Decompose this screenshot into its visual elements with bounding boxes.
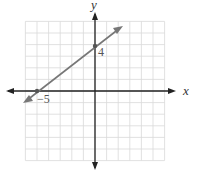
x-intercept-label: −5 bbox=[37, 92, 50, 106]
y-axis-down-arrow-icon bbox=[92, 162, 98, 170]
y-axis-up-arrow-icon bbox=[92, 12, 98, 20]
plotted-line bbox=[26, 28, 120, 101]
y-intercept-label: 4 bbox=[98, 45, 104, 59]
coordinate-plane: x y −5 4 bbox=[0, 0, 200, 173]
x-axis-left-arrow-icon bbox=[6, 88, 14, 94]
x-axis-right-arrow-icon bbox=[168, 88, 176, 94]
x-axis-label: x bbox=[182, 83, 189, 98]
y-intercept-point bbox=[93, 44, 97, 48]
y-axis-label: y bbox=[89, 0, 97, 12]
